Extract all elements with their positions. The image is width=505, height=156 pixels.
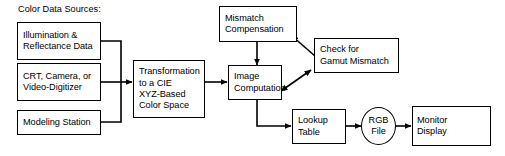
node-crt-line-2: Video-Digitizer — [23, 82, 82, 93]
node-mismatch-compensation[interactable]: Mismatch Compensation — [219, 6, 297, 42]
color-data-flow-diagram: Color Data Sources: Illumination & Refle… — [0, 0, 505, 156]
node-check-gamut-line-1: Check for — [320, 44, 359, 55]
connector-illumination-to-bus — [100, 41, 121, 82]
connector-modeling-to-bus — [100, 82, 121, 122]
node-illumination-reflectance-data[interactable]: Illumination & Reflectance Data — [17, 22, 101, 60]
node-monitor-display-line-2: Display — [417, 126, 447, 137]
node-crt-camera-video-digitizer[interactable]: CRT, Camera, or Video-Digitizer — [17, 63, 101, 101]
node-monitor-display[interactable]: Monitor Display — [412, 106, 491, 146]
node-rgb-file-line-2: File — [371, 126, 386, 137]
node-rgb-file[interactable]: RGB File — [361, 107, 396, 145]
node-mismatch-line-1: Mismatch — [225, 13, 264, 24]
node-modeling-station[interactable]: Modeling Station — [17, 110, 101, 135]
node-image-computation-line-1: Image — [234, 71, 259, 82]
node-transformation-line-2: to a CIE — [139, 78, 172, 89]
node-transformation-line-3: XYZ-Based — [139, 89, 186, 100]
node-transformation-line-4: Color Space — [139, 100, 189, 111]
connector-image-computation-to-lookup-table — [257, 100, 291, 126]
node-crt-line-1: CRT, Camera, or — [23, 71, 91, 82]
node-transformation-line-1: Transformation — [139, 66, 200, 77]
node-transformation-to-cie-xyz[interactable]: Transformation to a CIE XYZ-Based Color … — [133, 60, 205, 118]
node-monitor-display-line-1: Monitor — [417, 115, 447, 126]
node-modeling-station-line-1: Modeling Station — [23, 117, 91, 128]
node-lookup-table-line-1: Lookup — [298, 115, 328, 126]
diagram-title: Color Data Sources: — [18, 4, 101, 15]
node-image-computation-line-2: Computation — [234, 83, 286, 94]
node-illumination-line-2: Reflectance Data — [23, 41, 93, 52]
node-check-gamut-line-2: Gamut Mismatch — [320, 56, 389, 67]
node-rgb-file-line-1: RGB — [369, 115, 389, 126]
node-lookup-table-line-2: Table — [298, 127, 320, 138]
node-mismatch-line-2: Compensation — [225, 24, 284, 35]
node-check-for-gamut-mismatch[interactable]: Check for Gamut Mismatch — [314, 38, 399, 73]
node-lookup-table[interactable]: Lookup Table — [292, 109, 346, 144]
node-illumination-line-1: Illumination & — [23, 30, 77, 41]
node-image-computation[interactable]: Image Computation — [228, 65, 282, 100]
